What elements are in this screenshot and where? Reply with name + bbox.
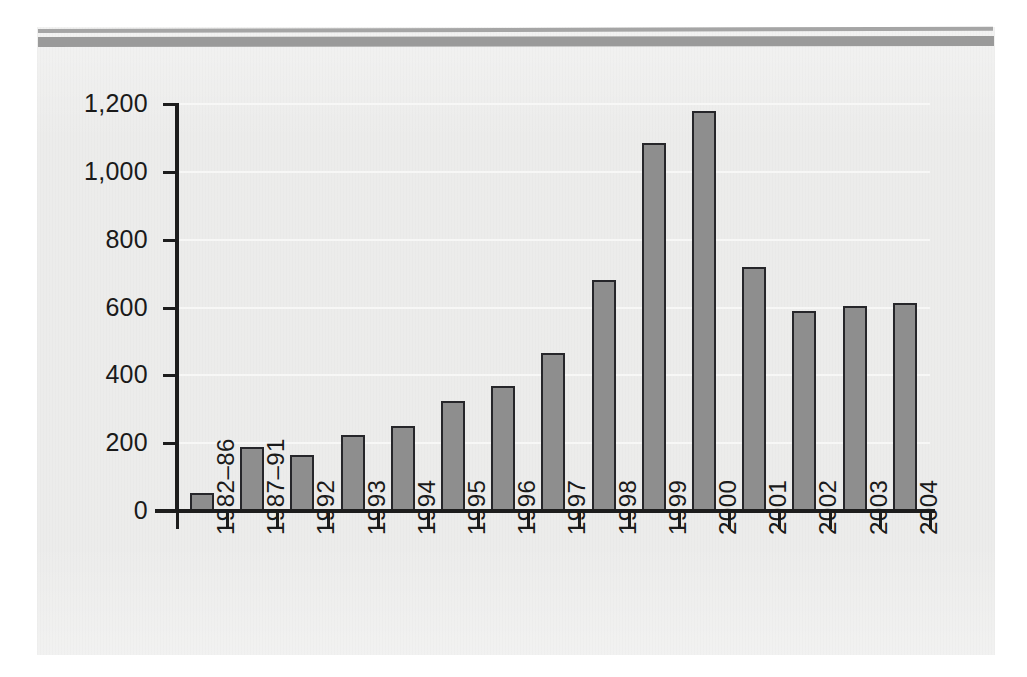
y-axis-tick bbox=[163, 103, 177, 106]
bar-chart: 02004006008001,0001,200 1982–861987–9119… bbox=[0, 0, 1027, 677]
y-axis-tick-label: 1,200 bbox=[36, 89, 148, 115]
x-axis-tick-label: 1987–91 bbox=[262, 438, 290, 535]
y-axis-tick-label: 600 bbox=[36, 293, 148, 319]
y-axis-tick-label-text: 800 bbox=[36, 225, 148, 254]
y-axis-tick bbox=[163, 442, 177, 445]
y-axis-tick-label: 200 bbox=[36, 428, 148, 454]
bar bbox=[441, 401, 465, 513]
bar bbox=[541, 353, 565, 513]
y-axis-tick-label: 800 bbox=[36, 225, 148, 251]
x-axis-tick-label: 1993 bbox=[363, 480, 391, 535]
x-axis-tick-label: 1992 bbox=[312, 480, 340, 535]
x-axis-tick-label: 1997 bbox=[563, 480, 591, 535]
y-axis-tick-label-text: 0 bbox=[36, 496, 148, 525]
gridline bbox=[178, 239, 930, 241]
bar bbox=[792, 311, 816, 513]
y-axis-tick bbox=[163, 239, 177, 242]
y-axis-tick-label-text: 1,200 bbox=[36, 89, 148, 118]
x-axis-tick-label: 2004 bbox=[915, 480, 943, 535]
y-axis-tick bbox=[163, 171, 177, 174]
y-axis-tick-label-text: 200 bbox=[36, 428, 148, 457]
y-axis-tick bbox=[163, 374, 177, 377]
y-axis-tick-label: 400 bbox=[36, 360, 148, 386]
bar bbox=[843, 306, 867, 513]
y-axis-tick bbox=[163, 307, 177, 310]
bar bbox=[240, 447, 264, 513]
bar bbox=[391, 426, 415, 513]
x-axis-tick-label: 2001 bbox=[764, 480, 792, 535]
bar bbox=[642, 143, 666, 513]
x-axis-tick-label: 1998 bbox=[614, 480, 642, 535]
y-axis-tick-label: 0 bbox=[36, 496, 148, 522]
x-axis-tick bbox=[176, 513, 179, 529]
bar bbox=[290, 455, 314, 513]
bar bbox=[692, 111, 716, 513]
x-axis-tick-label: 1999 bbox=[664, 480, 692, 535]
figure-canvas: 02004006008001,0001,200 1982–861987–9119… bbox=[0, 0, 1027, 677]
x-axis-tick-label: 1995 bbox=[463, 480, 491, 535]
gridline bbox=[178, 307, 930, 309]
x-axis-tick-label: 1982–86 bbox=[212, 438, 240, 535]
y-axis-tick-label: 1,000 bbox=[36, 157, 148, 183]
y-axis-tick-label-text: 600 bbox=[36, 293, 148, 322]
bar bbox=[742, 267, 766, 513]
x-axis-tick-label: 2002 bbox=[814, 480, 842, 535]
y-axis-tick bbox=[163, 510, 177, 513]
gridline bbox=[178, 171, 930, 173]
x-axis-tick-label: 1994 bbox=[413, 480, 441, 535]
bar bbox=[592, 280, 616, 513]
x-axis-tick-label: 2000 bbox=[714, 480, 742, 535]
x-axis-tick-label: 1996 bbox=[513, 480, 541, 535]
x-axis-tick-label: 2003 bbox=[865, 480, 893, 535]
bar bbox=[893, 303, 917, 513]
bar bbox=[341, 435, 365, 513]
y-axis-tick-label-text: 1,000 bbox=[36, 157, 148, 186]
bar bbox=[491, 386, 515, 513]
gridline bbox=[178, 103, 930, 105]
y-axis-tick-label-text: 400 bbox=[36, 360, 148, 389]
